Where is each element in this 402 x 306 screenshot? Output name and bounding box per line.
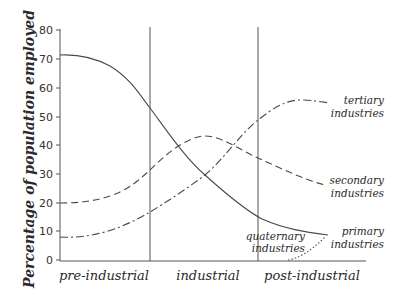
- primary-industries-line: [60, 55, 328, 235]
- y-tick: 80: [39, 24, 53, 37]
- y-tick-labels: 0 10 20 30 40 50 60 70 80: [39, 24, 53, 267]
- secondary-label: secondary: [330, 174, 386, 186]
- category-post-industrial: post-industrial: [264, 268, 360, 283]
- tertiary-label: tertiary: [344, 94, 385, 106]
- category-pre-industrial: pre-industrial: [59, 268, 149, 283]
- employment-sector-chart: Percentage of population employed 0 10 2…: [0, 0, 402, 306]
- primary-label: industries: [331, 238, 385, 250]
- x-category-labels: pre-industrial industrial post-industria…: [59, 268, 360, 283]
- tertiary-industries-line: [60, 100, 330, 237]
- y-tick: 20: [39, 197, 53, 210]
- y-tick: 0: [46, 254, 53, 267]
- quaternary-label: quaternary: [246, 230, 306, 242]
- secondary-industries-line: [60, 136, 325, 203]
- y-tick: 40: [39, 139, 53, 152]
- tertiary-label: industries: [331, 107, 385, 119]
- category-industrial: industrial: [176, 268, 239, 283]
- secondary-label: industries: [331, 187, 385, 199]
- y-tick: 50: [39, 111, 53, 124]
- quaternary-label: industries: [252, 242, 306, 254]
- primary-label: primary: [342, 225, 385, 237]
- y-axis-label: Percentage of population employed: [21, 10, 37, 289]
- y-tick: 60: [39, 82, 53, 95]
- y-tick: 10: [39, 225, 53, 238]
- series-labels: tertiary industries secondary industries…: [246, 94, 385, 254]
- y-tick: 30: [39, 168, 53, 181]
- y-tick: 70: [39, 53, 53, 66]
